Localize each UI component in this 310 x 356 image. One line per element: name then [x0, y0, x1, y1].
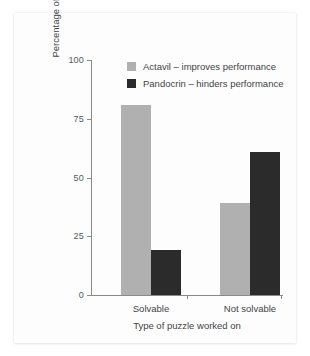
legend-label-pandocrin: Pandocrin – hinders performance: [143, 78, 283, 89]
bar-actavil-not-solvable: [220, 203, 250, 295]
x-tick-label-not-solvable: Not solvable: [224, 303, 276, 314]
x-tick-label-solvable: Solvable: [133, 303, 169, 314]
bar-pandocrin-solvable: [151, 250, 181, 295]
y-tick-label-100: 100: [68, 55, 84, 65]
x-axis-title: Type of puzzle worked on: [92, 320, 282, 331]
figure-panel: Percentage of subjects choosing each dru…: [14, 13, 296, 343]
bar-actavil-solvable: [121, 105, 151, 295]
y-axis-line: [91, 60, 92, 296]
legend-item-actavil: Actavil – improves performance: [127, 59, 283, 74]
legend-item-pandocrin: Pandocrin – hinders performance: [127, 76, 283, 91]
y-tick-label-0: 0: [79, 290, 84, 300]
legend-swatch-icon: [127, 79, 136, 88]
chart-figure: Percentage of subjects choosing each dru…: [0, 0, 310, 356]
x-axis-end-tick: [281, 295, 282, 299]
legend-label-actavil: Actavil – improves performance: [143, 61, 276, 72]
y-tick-label-50: 50: [74, 173, 84, 183]
y-tick-label-75: 75: [74, 114, 84, 124]
x-axis-separator-tick: [187, 295, 188, 299]
y-tick-label-25: 25: [74, 231, 84, 241]
bar-pandocrin-not-solvable: [250, 152, 280, 295]
chart-legend: Actavil – improves performance Pandocrin…: [127, 59, 283, 93]
y-axis-title: Percentage of subjects choosing each dru…: [50, 0, 62, 84]
legend-swatch-icon: [127, 62, 136, 71]
plot-area: 100 75 50 25 0: [92, 60, 282, 295]
